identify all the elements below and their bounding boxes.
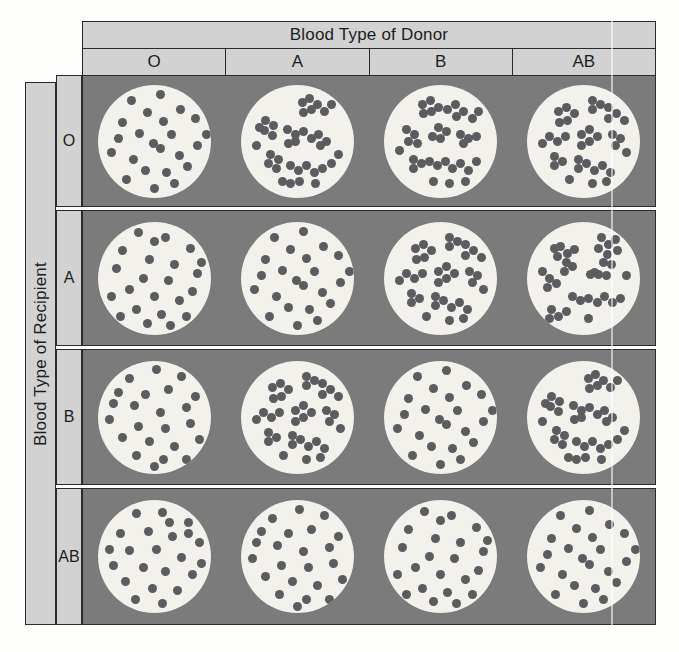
red-blood-cell-dot bbox=[436, 460, 445, 469]
red-blood-cell-dot bbox=[304, 563, 313, 572]
plate-recipient-o-donor-o[interactable] bbox=[83, 76, 226, 206]
red-blood-cell-dot bbox=[585, 506, 594, 515]
recipient-row-header-o: O bbox=[56, 75, 82, 207]
red-blood-cell-dot bbox=[284, 385, 293, 394]
red-blood-cell-dot bbox=[338, 575, 347, 584]
red-blood-cell-dot bbox=[593, 381, 602, 390]
red-blood-cell-dot bbox=[186, 419, 195, 428]
red-blood-cell-dot bbox=[299, 127, 308, 136]
red-blood-cell-dot bbox=[132, 509, 141, 518]
red-blood-cell-dot bbox=[585, 384, 594, 393]
red-blood-cell-dot bbox=[302, 161, 311, 170]
donor-column-header-a: A bbox=[226, 49, 369, 75]
red-blood-cell-dot bbox=[134, 228, 143, 237]
red-blood-cell-dot bbox=[299, 108, 308, 117]
plate-recipient-ab-donor-a[interactable] bbox=[226, 489, 369, 624]
red-blood-cell-dot bbox=[197, 559, 206, 568]
plate-recipient-o-donor-ab[interactable] bbox=[512, 76, 655, 206]
red-blood-cell-dot bbox=[420, 507, 429, 516]
red-blood-cell-dot bbox=[402, 590, 411, 599]
plate-recipient-a-donor-b[interactable] bbox=[369, 211, 512, 345]
red-blood-cell-dot bbox=[560, 431, 569, 440]
red-blood-cell-dot bbox=[588, 437, 597, 446]
red-blood-cell-dot bbox=[398, 543, 407, 552]
red-blood-cell-dot bbox=[318, 379, 327, 388]
plate-recipient-b-donor-o[interactable] bbox=[83, 350, 226, 484]
plate-recipient-b-donor-ab[interactable] bbox=[512, 350, 655, 484]
red-blood-cell-dot bbox=[565, 175, 574, 184]
red-blood-cell-dot bbox=[477, 390, 486, 399]
red-blood-cell-dot bbox=[441, 157, 450, 166]
red-blood-cell-dot bbox=[143, 319, 152, 328]
red-blood-cell-dot bbox=[429, 384, 438, 393]
plate-recipient-b-donor-a[interactable] bbox=[226, 350, 369, 484]
red-blood-cell-dot bbox=[581, 453, 590, 462]
recipient-axis-title-cell: Blood Type of Recipient bbox=[25, 82, 56, 625]
plate-row bbox=[82, 488, 656, 625]
red-blood-cell-dot bbox=[257, 271, 266, 280]
red-blood-cell-dot bbox=[463, 305, 472, 314]
red-blood-cell-dot bbox=[193, 141, 202, 150]
red-blood-cell-dot bbox=[307, 105, 316, 114]
red-blood-cell-dot bbox=[334, 150, 343, 159]
red-blood-cell-dot bbox=[175, 151, 184, 160]
red-blood-cell-dot bbox=[112, 264, 121, 273]
red-blood-cell-dot bbox=[443, 588, 452, 597]
red-blood-cell-dot bbox=[166, 321, 175, 330]
plate-recipient-ab-donor-ab[interactable] bbox=[512, 489, 655, 624]
red-blood-cell-dot bbox=[612, 578, 621, 587]
red-blood-cell-dot bbox=[543, 283, 552, 292]
recipient-row-header-a: A bbox=[56, 210, 82, 346]
red-blood-cell-dot bbox=[307, 408, 316, 417]
red-blood-cell-dot bbox=[428, 132, 437, 141]
red-blood-cell-dot bbox=[604, 440, 613, 449]
red-blood-cell-dot bbox=[295, 505, 304, 514]
red-blood-cell-dot bbox=[268, 514, 277, 523]
red-blood-cell-dot bbox=[116, 529, 125, 538]
red-blood-cell-dot bbox=[135, 129, 144, 138]
recipient-row-header-b: B bbox=[56, 349, 82, 485]
red-blood-cell-dot bbox=[434, 278, 443, 287]
red-blood-cell-dot bbox=[131, 595, 140, 604]
red-blood-cell-dot bbox=[269, 394, 278, 403]
plate-recipient-a-donor-o[interactable] bbox=[83, 211, 226, 345]
red-blood-cell-dot bbox=[327, 100, 336, 109]
plate-recipient-o-donor-b[interactable] bbox=[369, 76, 512, 206]
red-blood-cell-dot bbox=[252, 538, 261, 547]
red-blood-cell-dot bbox=[563, 116, 572, 125]
red-blood-cell-dot bbox=[265, 312, 274, 321]
red-blood-cell-dot bbox=[177, 553, 186, 562]
red-blood-cell-dot bbox=[477, 253, 486, 262]
red-blood-cell-dot bbox=[176, 105, 185, 114]
red-blood-cell-dot bbox=[555, 397, 564, 406]
petri-dish-dispersed bbox=[384, 361, 497, 474]
red-blood-cell-dot bbox=[272, 433, 281, 442]
red-blood-cell-dot bbox=[445, 316, 454, 325]
red-blood-cell-dot bbox=[562, 307, 571, 316]
red-blood-cell-dot bbox=[585, 125, 594, 134]
red-blood-cell-dot bbox=[319, 242, 328, 251]
agglutination-plate-grid bbox=[82, 75, 656, 625]
red-blood-cell-dot bbox=[593, 298, 602, 307]
plate-recipient-b-donor-b[interactable] bbox=[369, 350, 512, 484]
red-blood-cell-dot bbox=[422, 312, 431, 321]
red-blood-cell-dot bbox=[161, 424, 170, 433]
plate-recipient-ab-donor-b[interactable] bbox=[369, 489, 512, 624]
red-blood-cell-dot bbox=[182, 455, 191, 464]
red-blood-cell-dot bbox=[420, 253, 429, 262]
red-blood-cell-dot bbox=[158, 508, 167, 517]
red-blood-cell-dot bbox=[427, 246, 436, 255]
plate-recipient-a-donor-ab[interactable] bbox=[512, 211, 655, 345]
red-blood-cell-dot bbox=[547, 534, 556, 543]
plate-row bbox=[82, 75, 656, 207]
plate-recipient-a-donor-a[interactable] bbox=[226, 211, 369, 345]
red-blood-cell-dot bbox=[277, 392, 286, 401]
red-blood-cell-dot bbox=[261, 255, 270, 264]
red-blood-cell-dot bbox=[129, 155, 138, 164]
plate-recipient-ab-donor-o[interactable] bbox=[83, 489, 226, 624]
red-blood-cell-dot bbox=[611, 141, 620, 150]
red-blood-cell-dot bbox=[469, 246, 478, 255]
plate-recipient-o-donor-a[interactable] bbox=[226, 76, 369, 206]
red-blood-cell-dot bbox=[572, 455, 581, 464]
red-blood-cell-dot bbox=[118, 433, 127, 442]
